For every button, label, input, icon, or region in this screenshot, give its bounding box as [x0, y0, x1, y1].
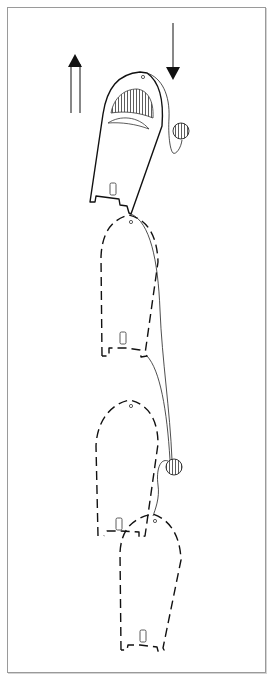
maneuver-diagram [0, 0, 272, 679]
downward-arrow [166, 23, 180, 80]
boat-position-2 [101, 215, 158, 357]
bow-cleat [141, 75, 144, 78]
boat-seat [108, 118, 149, 129]
buoy-lower-line [153, 461, 168, 516]
outboard-motor [120, 332, 126, 344]
tow-line [131, 214, 172, 460]
bow-cleat [153, 519, 156, 522]
bow-cleat [129, 404, 132, 407]
bow-cleat [129, 220, 132, 223]
outboard-motor [110, 183, 116, 195]
tow-line-2 [147, 356, 170, 460]
boat-position-1 [90, 72, 182, 214]
buoy-upper [173, 123, 189, 139]
boat-position-4 [120, 514, 181, 651]
buoy-lower [166, 459, 182, 475]
boat-position-3 [96, 400, 158, 537]
boat-hull-outline [96, 400, 158, 537]
boat-console [111, 89, 153, 118]
boat-hull-outline [101, 215, 158, 357]
outboard-motor [140, 630, 146, 642]
upward-arrow [68, 54, 82, 113]
outboard-motor [116, 518, 122, 530]
boat-hull-outline [120, 514, 181, 651]
